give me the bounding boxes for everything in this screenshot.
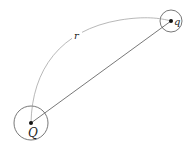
coulomb-diagram: Q q r — [0, 0, 195, 152]
label-q: q — [174, 16, 180, 27]
charge-Q-dot — [29, 121, 33, 125]
connecting-line — [31, 21, 171, 123]
label-Q: Q — [28, 126, 38, 140]
charge-q-dot — [169, 19, 173, 23]
